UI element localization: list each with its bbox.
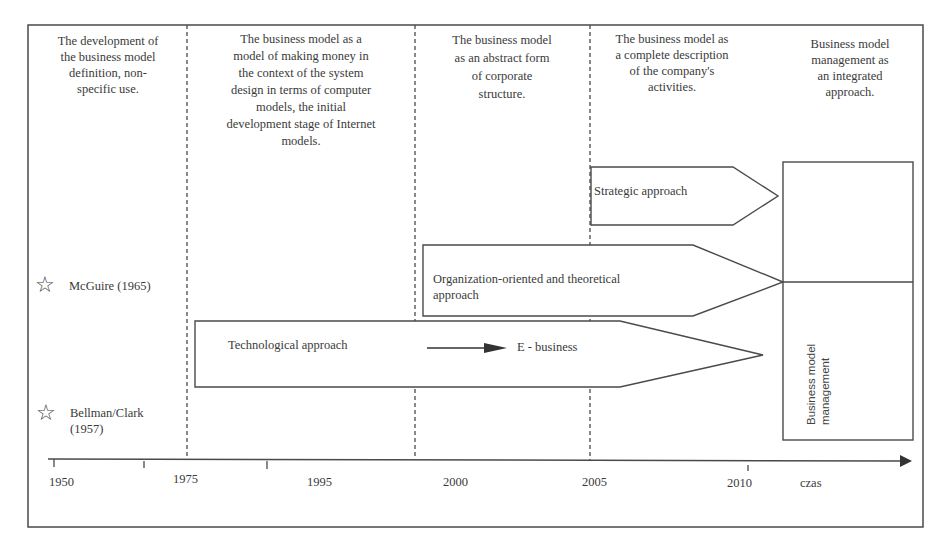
era-2-line: development stage of Internet [190,116,412,133]
milestone-bellman-clark: Bellman/Clark (1957) [70,405,144,437]
era-2-line: model of making money in [190,48,412,65]
era-3-description: The business model as an abstract form o… [418,31,586,103]
era-2-line: models. [190,133,412,150]
era-2-line: The business model as a [190,31,412,48]
era-1-description: The development of the business model de… [32,33,184,97]
era-2-description: The business model as a model of making … [190,31,412,150]
timeline-arrow-head [900,455,912,467]
era-1-line: specific use. [32,81,184,97]
era-3-line: structure. [418,85,586,103]
milestone-line: Bellman/Clark [70,405,144,421]
tick-label-2005: 2005 [582,475,607,490]
tick-label-2000: 2000 [443,475,468,490]
era-5-description: Business model management as an integrat… [790,36,910,100]
era-5-line: Business model [790,36,910,52]
era-1-line: definition, non- [32,65,184,81]
era-3-line: of corporate [418,67,586,85]
business-model-evolution-diagram: The development of the business model de… [0,0,944,554]
tick-label-1995: 1995 [307,475,332,490]
era-4-line: activities. [592,79,752,95]
technological-approach-label: Technological approach [228,337,348,353]
era-3-line: The business model [418,31,586,49]
era-3-line: as an abstract form [418,49,586,67]
timeline-axis [48,459,902,461]
era-2-line: the context of the system [190,65,412,82]
management-label-line: Business model [804,344,818,425]
strategic-approach-label: Strategic approach [594,183,687,199]
era-4-line: The business model as [592,31,752,47]
era-4-description: The business model as a complete descrip… [592,31,752,95]
era-4-line: of the company's [592,63,752,79]
era-1-line: the business model [32,49,184,65]
ebusiness-label: E - business [517,339,577,355]
star-outline-icon: ☆ [35,274,55,296]
technological-approach-arrow [195,321,763,387]
business-model-management-label: Business model management [804,344,832,425]
milestone-line: (1957) [70,421,144,437]
era-2-line: design in terms of computer [190,82,412,99]
management-label-line: management [818,344,832,425]
era-5-line: management as [790,52,910,68]
star-outline-icon: ☆ [36,402,56,424]
era-1-line: The development of [32,33,184,49]
organization-label-line: Organization-oriented and theoretical [433,271,620,287]
era-2-line: models, the initial [190,99,412,116]
tick-label-1950: 1950 [49,475,74,490]
era-5-line: approach. [790,84,910,100]
timeline-axis-label: czas [800,476,822,491]
tick-label-2010: 2010 [727,476,752,491]
era-5-line: an integrated [790,68,910,84]
management-box [783,162,913,440]
organization-approach-label: Organization-oriented and theoretical ap… [433,271,620,303]
milestone-mcguire: McGuire (1965) [69,278,151,294]
organization-label-line: approach [433,287,620,303]
era-4-line: a complete description [592,47,752,63]
tick-label-1975: 1975 [173,472,198,487]
